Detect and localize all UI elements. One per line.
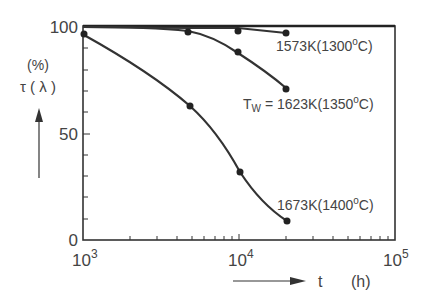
- x-axis-unit: (h): [351, 273, 371, 290]
- y-ticks: [83, 48, 90, 219]
- y-axis-arrow-icon: [35, 108, 43, 178]
- series-1673k-label: 1673K(1400oC): [277, 195, 374, 213]
- y-tick-100: 100: [50, 18, 78, 37]
- series-1573k-label: 1573K(1300oC): [276, 36, 373, 54]
- series-1623k-line: [83, 27, 286, 88]
- y-tick-50: 50: [59, 125, 78, 144]
- data-markers: [81, 28, 291, 225]
- chart: 100 50 0 (%) τ ( λ ) 103 104 105 t (h) 1…: [0, 0, 427, 308]
- series-1673k-line: [84, 35, 287, 221]
- series-1623k-label: TW = 1623K(1350oC): [243, 94, 374, 114]
- x-axis-arrow-icon: [233, 277, 306, 285]
- x-tick-10e5: 105: [383, 247, 409, 270]
- y-tick-0: 0: [69, 231, 78, 250]
- x-tick-10e3: 103: [72, 247, 98, 270]
- x-tick-10e4: 104: [228, 247, 254, 270]
- y-axis-symbol: τ ( λ ): [20, 78, 56, 95]
- x-ticks: [130, 234, 388, 240]
- x-axis-variable: t: [318, 273, 323, 290]
- y-axis-unit: (%): [27, 57, 49, 73]
